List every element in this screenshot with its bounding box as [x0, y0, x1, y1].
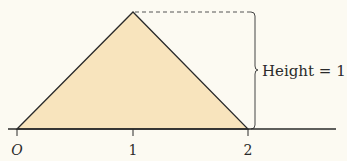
height-label: Height = 1 [262, 62, 346, 80]
tick-label-two: 2 [244, 142, 253, 158]
diagram-canvas: O 1 2 Height = 1 [0, 0, 347, 161]
tick-label-origin: O [11, 142, 23, 158]
tick-label-one: 1 [129, 142, 138, 158]
triangle-diagram: O 1 2 Height = 1 [0, 0, 347, 161]
